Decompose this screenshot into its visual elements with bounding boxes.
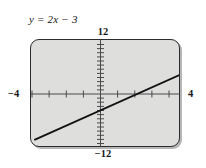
graph-figure: y = 2x − 3 xyxy=(0,0,206,168)
y-max-label: 12 xyxy=(0,26,206,37)
x-min-label: −4 xyxy=(8,88,19,99)
y-min-label: −12 xyxy=(0,148,206,159)
equation-label: y = 2x − 3 xyxy=(29,13,78,25)
plot-area xyxy=(31,40,180,147)
plotted-line xyxy=(35,74,180,139)
x-max-label: 4 xyxy=(188,88,193,99)
calculator-screen xyxy=(30,39,180,147)
